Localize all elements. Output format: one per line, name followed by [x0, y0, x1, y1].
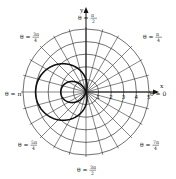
- svg-text:4: 4: [34, 38, 37, 43]
- y-axis-label: y: [79, 6, 84, 14]
- svg-text:θ = 0: θ = 0: [150, 90, 166, 97]
- svg-text:π: π: [156, 32, 159, 37]
- svg-text:θ =: θ =: [78, 14, 89, 21]
- angle-label-a45: θ = π4: [143, 32, 162, 43]
- svg-text:5π: 5π: [31, 140, 37, 145]
- svg-text:3π: 3π: [33, 32, 39, 37]
- angle-label-a270: θ = 3π2: [77, 165, 96, 176]
- svg-text:θ =: θ =: [140, 141, 151, 148]
- radial-tick-label: 3: [122, 94, 126, 100]
- radial-tick-label: 1: [97, 94, 101, 100]
- angle-label-a135: θ = 3π4: [20, 32, 39, 43]
- grid-spoke: [86, 46, 132, 92]
- radial-tick-label: 2: [109, 94, 113, 100]
- angle-label-a225: θ = 5π4: [18, 140, 37, 151]
- y-axis-arrow-icon: [84, 7, 89, 13]
- svg-text:θ =: θ =: [18, 141, 29, 148]
- x-axis-label: x: [160, 82, 164, 89]
- svg-text:θ =: θ =: [143, 33, 154, 40]
- angle-label-a90: θ = π2: [78, 13, 97, 24]
- svg-text:θ =: θ =: [77, 166, 88, 173]
- svg-text:2: 2: [92, 19, 95, 24]
- svg-text:4: 4: [157, 38, 160, 43]
- angle-label-a0: θ = 0: [150, 90, 166, 97]
- svg-text:π: π: [91, 13, 94, 18]
- angle-label-a315: θ = 7π4: [140, 140, 159, 151]
- radial-tick-label: 4: [134, 94, 138, 100]
- svg-text:θ = π: θ = π: [5, 90, 21, 97]
- angle-label-a180: θ = π: [5, 90, 21, 97]
- svg-text:3π: 3π: [90, 165, 96, 170]
- svg-text:2: 2: [91, 171, 94, 176]
- svg-text:4: 4: [154, 146, 157, 151]
- svg-text:7π: 7π: [153, 140, 159, 145]
- svg-text:θ =: θ =: [20, 33, 31, 40]
- svg-text:4: 4: [32, 146, 35, 151]
- polar-plot: x y 12345 θ = 0θ = π4θ = π2θ = 3π4θ = πθ…: [0, 0, 176, 179]
